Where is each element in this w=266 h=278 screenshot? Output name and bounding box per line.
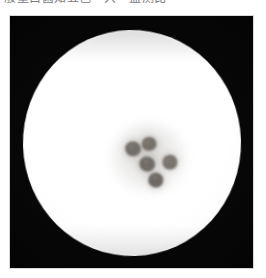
clipped-caption-text: 般量白菌知五色一只—监测比 — [4, 0, 167, 5]
photo-frame — [10, 16, 253, 268]
clipped-caption-strip: 般量白菌知五色一只—监测比 — [0, 0, 266, 8]
petri-dish — [20, 27, 244, 259]
